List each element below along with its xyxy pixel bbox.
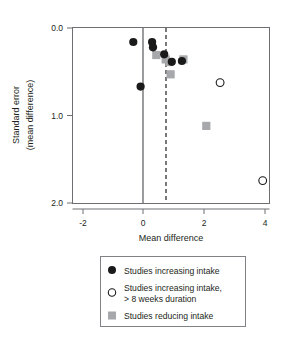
data-point-filled-circle [137,83,145,91]
legend-marker-open-circle-icon [108,289,115,296]
data-point-filled-circle [178,57,186,65]
legend-label-reducing-intake: Studies reducing intake [124,311,214,321]
data-point-open-circle [216,79,224,87]
legend-marker-gray-square-icon [108,312,116,320]
data-point-filled-circle [149,43,157,51]
y-axis-title-line2: (mean difference) [25,80,35,150]
xtick-label-4: 4 [263,218,268,228]
legend-marker-filled-circle-icon [108,266,116,274]
legend-label-increasing-intake-8wk-line1: Studies increasing intake, [124,283,222,293]
data-point-open-circle [259,177,267,185]
funnel-plot-svg: 0.0 1.0 2.0 -2 0 2 4 Mean difference Sta… [0,0,281,337]
data-point-filled-circle [160,50,168,58]
funnel-plot-figure: 0.0 1.0 2.0 -2 0 2 4 Mean difference Sta… [0,0,281,337]
ytick-label-1: 1.0 [51,111,63,121]
data-point-filled-circle [168,58,176,66]
data-point-filled-circle [129,38,137,46]
ytick-label-0: 0.0 [51,23,63,33]
data-point-square [202,122,210,130]
ytick-label-2: 2.0 [51,198,63,208]
legend-label-increasing-intake-8wk-line2: > 8 weeks duration [124,294,197,304]
series-studies-increasing-intake [129,38,186,91]
y-axis-title-line1: Standard error [11,86,21,144]
data-point-square [152,51,160,59]
data-point-square [167,70,175,78]
legend-label-increasing-intake: Studies increasing intake [124,266,220,276]
series-studies-increasing-intake-8-weeks [216,79,266,185]
x-axis-title: Mean difference [139,233,203,243]
xtick-label-0: 0 [141,218,146,228]
plot-frame [73,28,270,204]
xtick-label-2: 2 [202,218,207,228]
xtick-label-minus2: -2 [79,218,87,228]
